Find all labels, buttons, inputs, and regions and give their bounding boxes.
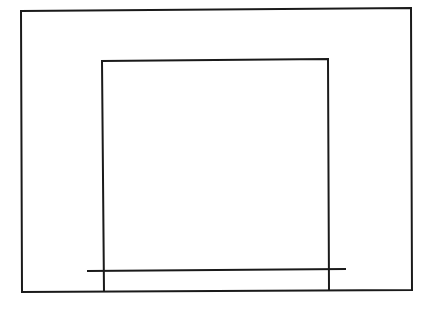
background — [0, 0, 423, 311]
line-diagram — [0, 0, 423, 311]
